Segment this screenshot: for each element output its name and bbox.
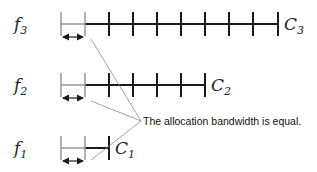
row-label-f1: f1	[12, 138, 27, 161]
channel-label-c1: C1	[115, 138, 135, 161]
bandwidth-allocation-diagram: f3 C3 f2 C2 f1	[0, 0, 317, 172]
row-label-f3: f3	[12, 14, 27, 37]
annotation-text: The allocation bandwidth is equal.	[143, 115, 301, 127]
channel-label-c3: C3	[284, 14, 304, 37]
channel-label-c2: C2	[211, 75, 231, 98]
row-label-f2: f2	[12, 75, 27, 98]
row-f2: f2 C2	[12, 73, 231, 98]
row-f3: f3 C3	[12, 12, 304, 37]
